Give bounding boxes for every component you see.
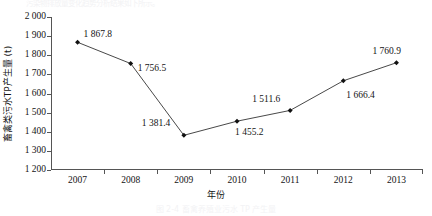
x-axis-tick [370,170,371,174]
x-axis-title: 年份 [0,190,432,200]
data-point-marker [288,108,293,113]
figure-container: 污染物排放量变化趋势分析结果如下所示。 畜禽类污水TP产生量 (t) 1 200… [0,0,432,216]
data-point-label: 1 455.2 [235,127,264,137]
x-axis-tick [422,170,423,174]
data-point-label: 1 381.4 [142,118,171,128]
data-point-label: 1 666.4 [346,90,375,100]
x-axis-tick-label: 2007 [68,175,87,185]
y-axis-tick-label: 1 500 [25,108,46,118]
y-axis-tick-label: 1 800 [25,51,46,61]
top-text-remnant: 污染物排放量变化趋势分析结果如下所示。 [26,0,326,8]
x-axis-tick-label: 2008 [121,175,140,185]
figure-caption-remnant: 图 2-4 畜禽养殖业污水 TP 产生量 [0,205,432,214]
data-point-marker [394,60,399,65]
y-axis-tick-label: 1 400 [25,127,46,137]
y-axis-tick [47,170,51,171]
data-point-marker [341,78,346,83]
x-axis-tick [104,170,105,174]
plot-area: 1 2001 3001 4001 5001 6001 7001 8001 900… [51,17,423,170]
y-axis-tick-label: 1 900 [25,31,46,41]
y-axis-tick-label: 1 700 [25,70,46,80]
y-axis-tick-label: 1 600 [25,89,46,99]
x-axis-tick-label: 2012 [334,175,353,185]
x-axis-tick [210,170,211,174]
data-point-label: 1 867.8 [84,29,113,39]
data-point-label: 1 760.9 [372,46,401,56]
data-point-label: 1 756.5 [138,63,167,73]
x-axis-tick [317,170,318,174]
x-axis-tick-label: 2009 [174,175,193,185]
y-axis-title: 畜禽类污水TP产生量 (t) [1,17,15,170]
x-axis-tick [157,170,158,174]
data-point-label: 1 511.6 [252,94,280,104]
x-axis-tick-label: 2013 [387,175,406,185]
x-axis-tick-label: 2011 [281,175,300,185]
y-axis-tick-label: 1 300 [25,146,46,156]
y-axis-tick-label: 1 200 [25,165,46,175]
data-point-marker [75,40,80,45]
data-point-marker [235,119,240,124]
y-axis-tick-label: 2 000 [25,12,46,22]
x-axis-tick-label: 2010 [228,175,247,185]
y-axis-title-label: 畜禽类污水TP产生量 (t) [3,45,13,141]
x-axis-tick [264,170,265,174]
